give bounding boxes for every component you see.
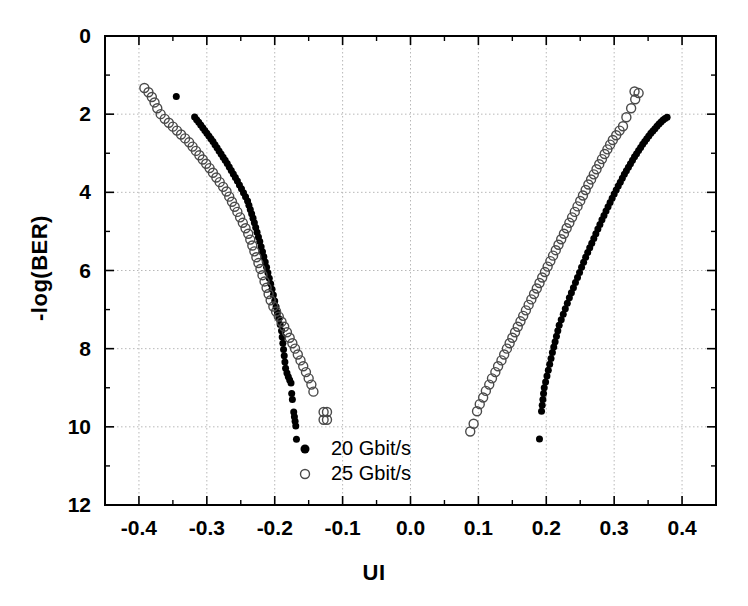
y-tick-label: 0 [79,24,91,47]
y-axis-title: -log(BER) [27,215,53,321]
legend-item: 25 Gbit/s [301,462,412,484]
data-point [288,380,295,387]
data-point [505,339,514,348]
series-25gbit [140,83,643,436]
data-point [279,340,286,347]
data-point [250,247,259,256]
data-point [246,235,255,244]
data-point [524,300,533,309]
data-point [545,367,552,374]
data-point [511,328,520,337]
data-point [292,423,299,430]
legend-item: 20 Gbit/s [301,437,412,459]
data-point [554,240,563,249]
data-point [538,273,547,282]
data-point [541,384,548,391]
data-point [546,361,553,368]
data-point [516,317,525,326]
data-point [559,229,568,238]
x-tick-label: -0.4 [121,516,158,539]
x-tick-label: 0.3 [600,516,629,539]
data-point [260,277,269,286]
data-point [236,213,245,222]
data-point [519,311,528,320]
y-tick-label: 12 [68,493,91,516]
data-point [573,202,582,211]
y-tick-label: 8 [79,337,91,360]
y-axis-title-wrapper: -log(BER) [27,58,53,478]
data-point [238,218,247,227]
data-point [568,213,577,222]
chart-legend: 20 Gbit/s25 Gbit/s [301,437,412,484]
data-point [562,224,571,233]
x-tick-label: 0.4 [667,516,697,539]
data-point [248,241,257,250]
data-point [281,352,288,359]
x-axis-title: UI [0,560,748,586]
legend-marker-filled-circle-icon [301,445,310,454]
data-point [173,93,180,100]
data-point [521,306,530,315]
data-point [543,262,552,271]
data-point [551,246,560,255]
data-point [252,253,261,262]
data-point [293,436,300,443]
gridlines [105,36,716,505]
legend-marker-open-circle-icon [301,470,310,479]
data-point [281,358,288,365]
data-point [664,114,671,121]
data-point [527,295,536,304]
data-point [549,251,558,260]
y-tick-label: 2 [79,102,91,125]
data-point [581,185,590,194]
data-point [540,268,549,277]
legend-label: 20 Gbit/s [331,437,411,459]
data-point [536,435,543,442]
data-point [254,259,263,268]
x-tick-label: 0.1 [464,516,494,539]
x-tick-label: 0.0 [396,516,425,539]
data-point [532,284,541,293]
data-point [576,196,585,205]
data-point [285,333,294,342]
data-point [578,191,587,200]
y-tick-label: 4 [79,180,91,203]
data-point [548,355,555,362]
data-point [241,224,250,233]
plot-canvas: -0.4-0.3-0.2-0.10.00.10.20.30.4024681012… [0,0,748,606]
data-point [543,373,550,380]
ber-bathtub-chart: -0.4-0.3-0.2-0.10.00.10.20.30.4024681012… [0,0,748,606]
data-point [565,218,574,227]
legend-label: 25 Gbit/s [331,462,411,484]
data-series-layer [140,83,671,442]
data-point [627,104,636,113]
x-tick-label: 0.2 [532,516,561,539]
series-20gbit [173,93,671,443]
data-point [546,257,555,266]
x-tick-label: -0.1 [325,516,362,539]
data-point [570,207,579,216]
data-point [513,322,522,331]
y-tick-label: 6 [79,259,91,282]
data-point [535,279,544,288]
data-point [530,289,539,298]
data-point [508,333,517,342]
data-point [280,346,287,353]
data-point [288,339,297,348]
data-point [289,396,296,403]
data-point [244,229,253,238]
y-tick-label: 10 [68,415,91,438]
data-point [557,235,566,244]
x-tick-label: -0.2 [257,516,293,539]
data-point [542,378,549,385]
x-tick-label: -0.3 [189,516,225,539]
